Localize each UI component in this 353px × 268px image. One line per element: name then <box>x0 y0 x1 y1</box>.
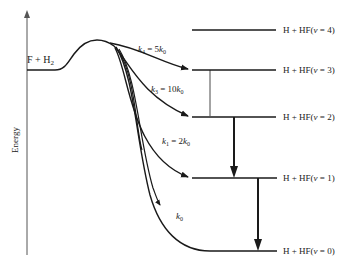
k0-curve <box>116 47 277 251</box>
level-label-v4: H + HF(v = 4) <box>283 25 335 35</box>
reactant-label: F + H2 <box>27 54 54 67</box>
rate-label-k0: k0 <box>176 211 183 222</box>
arrowhead-icon <box>230 166 238 178</box>
k0-curve-inner <box>119 49 160 205</box>
level-label-v0: H + HF(v = 0) <box>283 246 335 256</box>
energy-diagram: Energy F + H2 H + HF(v = 4) H + HF(v = 3… <box>0 0 353 268</box>
level-label-v1: H + HF(v = 1) <box>283 173 335 183</box>
rate-label-k4: k4 = 5k0 <box>138 44 166 55</box>
rate-label-k3: k3 = 10k0 <box>151 84 184 95</box>
axis-arrow-icon <box>24 10 30 18</box>
rate-label-k1: k1 = 2k0 <box>162 136 190 147</box>
level-label-v2: H + HF(v = 2) <box>283 112 335 122</box>
arrowhead-icon <box>254 239 262 251</box>
energy-axis <box>24 10 30 255</box>
axis-label: Energy <box>10 127 20 153</box>
level-label-v3: H + HF(v = 3) <box>283 65 335 75</box>
